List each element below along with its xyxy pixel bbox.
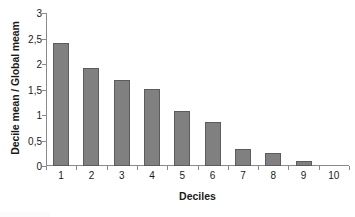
- y-tick-label: 2,5: [20, 33, 42, 44]
- plot-area: [46, 13, 349, 166]
- x-tick-mark: [349, 166, 350, 170]
- bar-5: [174, 111, 190, 166]
- y-tick-label: 1,5: [20, 84, 42, 95]
- x-tick-label: 8: [270, 170, 276, 181]
- bar-9: [296, 161, 312, 166]
- x-tick-label: 9: [301, 170, 307, 181]
- bars-layer: [46, 13, 349, 166]
- y-axis-tick-labels: 00,511,522,53: [20, 13, 42, 166]
- x-tick-label: 7: [240, 170, 246, 181]
- bar-3: [114, 80, 130, 166]
- bar-2: [83, 68, 99, 166]
- x-tick-label: 6: [210, 170, 216, 181]
- x-tick-label: 5: [180, 170, 186, 181]
- bar-1: [53, 43, 69, 166]
- x-tick-label: 1: [58, 170, 64, 181]
- y-tick-label: 0: [20, 161, 42, 172]
- bar-chart-figure: Decile mean / Global meam 00,511,522,53 …: [0, 0, 355, 217]
- y-tick-label: 2: [20, 59, 42, 70]
- page-edge-artifact: [0, 212, 50, 217]
- x-tick-label: 10: [328, 170, 339, 181]
- y-tick-label: 3: [20, 8, 42, 19]
- bar-4: [144, 89, 160, 166]
- x-axis-tick-labels: 12345678910: [46, 170, 349, 186]
- x-tick-label: 4: [149, 170, 155, 181]
- x-axis-title: Deciles: [46, 190, 349, 202]
- x-tick-label: 2: [89, 170, 95, 181]
- y-tick-label: 0,5: [20, 135, 42, 146]
- bar-6: [205, 122, 221, 166]
- y-tick-label: 1: [20, 110, 42, 121]
- x-tick-label: 3: [119, 170, 125, 181]
- bar-7: [235, 149, 251, 166]
- bar-8: [265, 153, 281, 166]
